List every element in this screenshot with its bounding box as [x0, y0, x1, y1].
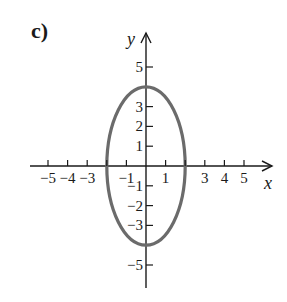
x-axis-label: x: [263, 173, 272, 193]
y-tick-label: 3: [136, 99, 144, 115]
x-tick-label: 5: [240, 170, 248, 186]
x-tick-label: −4: [60, 170, 76, 186]
ellipse-graph: c) −5−4−3−113455321−1−2−3−5 x y: [0, 0, 287, 302]
x-tick-label: −5: [40, 170, 56, 186]
y-axis-label: y: [125, 29, 135, 49]
x-tick-label: 1: [162, 170, 170, 186]
y-tick-label: −3: [127, 217, 143, 233]
panel-label: c): [31, 18, 48, 43]
y-tick-label: 5: [136, 59, 144, 75]
y-tick-label: −1: [127, 178, 143, 194]
x-tick-label: 3: [201, 170, 209, 186]
x-tick-label: −3: [79, 170, 95, 186]
y-tick-label: −5: [127, 257, 143, 273]
axes: [30, 33, 272, 288]
y-tick-label: −2: [127, 198, 143, 214]
y-tick-label: 2: [136, 118, 144, 134]
x-tick-label: 4: [221, 170, 229, 186]
y-tick-label: 1: [136, 138, 144, 154]
